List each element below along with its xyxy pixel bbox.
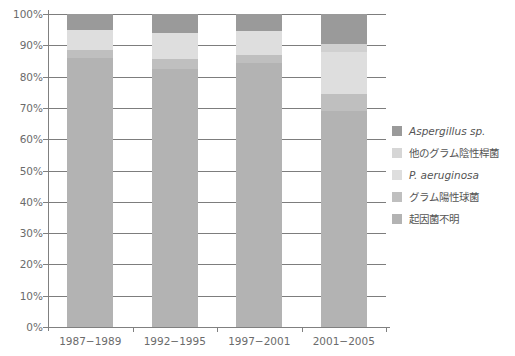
- bar-segment: [67, 30, 113, 50]
- y-axis-tick-label: 60%: [3, 134, 43, 144]
- x-axis-tick: [302, 327, 303, 332]
- plot-area: [48, 14, 386, 327]
- legend-swatch: [392, 214, 402, 224]
- y-axis-tick-label: 10%: [3, 291, 43, 301]
- bar-stack: [321, 14, 367, 327]
- y-axis-tick-label: 100%: [3, 9, 43, 19]
- bar-segment: [67, 14, 113, 30]
- y-axis-tick: [43, 202, 48, 203]
- y-axis-tick: [43, 171, 48, 172]
- y-axis-tick: [43, 264, 48, 265]
- bar-segment: [321, 44, 367, 52]
- legend-item: 起因菌不明: [392, 208, 499, 230]
- bar-segment: [236, 55, 282, 63]
- legend-item-label: 起因菌不明: [409, 213, 459, 225]
- legend-swatch: [392, 170, 402, 180]
- legend-item: Aspergillus sp.: [392, 120, 499, 142]
- y-axis-tick-label: 50%: [3, 166, 43, 176]
- bar-segment: [236, 31, 282, 54]
- y-axis-tick: [43, 108, 48, 109]
- y-axis-tick: [43, 233, 48, 234]
- bar-stack: [67, 14, 113, 327]
- x-axis-tick: [133, 327, 134, 332]
- y-axis-tick: [43, 45, 48, 46]
- y-axis-tick-label: 90%: [3, 40, 43, 50]
- bar-stack: [152, 14, 198, 327]
- y-axis-tick: [43, 139, 48, 140]
- x-axis-tick-label: 2001−2005: [284, 336, 404, 347]
- bar-segment: [236, 63, 282, 327]
- bar-stack: [236, 14, 282, 327]
- legend-item-label: グラム陽性球菌: [409, 191, 479, 203]
- y-axis-tick: [43, 14, 48, 15]
- y-axis-tick-label: 70%: [3, 103, 43, 113]
- bar-segment: [152, 59, 198, 68]
- y-axis-tick-label: 0%: [3, 322, 43, 332]
- bar-segment: [321, 14, 367, 44]
- legend-item-label: 他のグラム陰性桿菌: [409, 147, 499, 159]
- stacked-bar-chart: 0%10%20%30%40%50%60%70%80%90%100% 1987−1…: [0, 0, 515, 356]
- bar-segment: [321, 94, 367, 111]
- bar-segment: [67, 58, 113, 327]
- y-axis-tick-label: 80%: [3, 72, 43, 82]
- legend-swatch: [392, 126, 402, 136]
- x-axis-tick: [217, 327, 218, 332]
- bar-segment: [236, 14, 282, 31]
- legend-swatch: [392, 148, 402, 158]
- y-axis-tick-label: 40%: [3, 197, 43, 207]
- y-axis-tick: [43, 77, 48, 78]
- bar-segment: [321, 52, 367, 94]
- legend-item-label: Aspergillus sp.: [409, 125, 485, 137]
- y-axis-tick-label: 30%: [3, 228, 43, 238]
- bar-segment: [152, 14, 198, 33]
- legend: Aspergillus sp.他のグラム陰性桿菌P. aeruginosaグラム…: [392, 120, 499, 230]
- bar-segment: [321, 111, 367, 327]
- bar-segment: [152, 33, 198, 60]
- y-axis-tick: [43, 296, 48, 297]
- legend-item: P. aeruginosa: [392, 164, 499, 186]
- legend-item: 他のグラム陰性桿菌: [392, 142, 499, 164]
- x-axis-tick: [386, 327, 387, 332]
- y-axis-tick-label: 20%: [3, 259, 43, 269]
- legend-item-label: P. aeruginosa: [409, 169, 479, 181]
- legend-swatch: [392, 192, 402, 202]
- bar-segment: [152, 69, 198, 327]
- bar-segment: [67, 50, 113, 58]
- y-axis-tick: [43, 327, 48, 328]
- legend-item: グラム陽性球菌: [392, 186, 499, 208]
